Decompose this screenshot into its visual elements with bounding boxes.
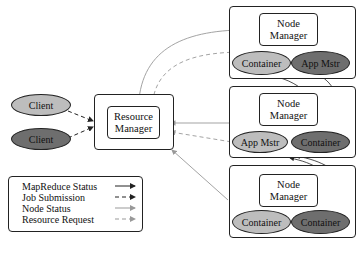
slot-label: App Mstr: [241, 137, 280, 148]
nm-label-1: Node: [277, 98, 300, 109]
nm-label-1: Node: [277, 18, 300, 29]
node-manager: NodeManager: [259, 93, 318, 126]
client-label: Client: [29, 134, 53, 145]
node-manager: NodeManager: [259, 13, 318, 46]
nm-label-2: Manager: [270, 110, 307, 121]
legend-item: Resource Request: [22, 215, 94, 225]
client-node: Client: [11, 94, 71, 116]
slot-label: Container: [301, 137, 340, 148]
app-master-slot: App Mstr: [291, 51, 350, 75]
client-node: Client: [11, 128, 71, 150]
legend: MapReduce Status Job Submission Node Sta…: [8, 176, 143, 232]
nm-label-2: Manager: [270, 191, 307, 202]
node-2: NodeManager App Mstr Container: [229, 86, 356, 158]
container-slot: Container: [291, 210, 350, 234]
slot-label: Container: [242, 58, 281, 69]
node-1: NodeManager Container App Mstr: [229, 6, 356, 79]
app-master-slot: App Mstr: [232, 131, 288, 153]
slot-label: App Mstr: [301, 58, 340, 69]
nm-label-1: Node: [277, 179, 300, 190]
nm-label-2: Manager: [270, 30, 307, 41]
resource-manager-container: ResourceManager: [94, 94, 174, 150]
legend-item: Job Submission: [22, 193, 85, 203]
node-manager: NodeManager: [259, 174, 318, 207]
resource-manager: ResourceManager: [107, 106, 160, 139]
slot-label: Container: [242, 217, 281, 228]
legend-item: MapReduce Status: [22, 182, 97, 192]
container-slot: Container: [232, 210, 291, 234]
node-3: NodeManager Container Container: [229, 165, 356, 238]
client-label: Client: [29, 100, 53, 111]
rm-label-2: Manager: [115, 123, 152, 134]
container-slot: Container: [291, 131, 350, 153]
rm-label-1: Resource: [114, 111, 153, 122]
slot-label: Container: [301, 217, 340, 228]
legend-item: Node Status: [22, 204, 71, 214]
container-slot: Container: [232, 51, 291, 75]
legend-line-swatches: [113, 181, 141, 229]
